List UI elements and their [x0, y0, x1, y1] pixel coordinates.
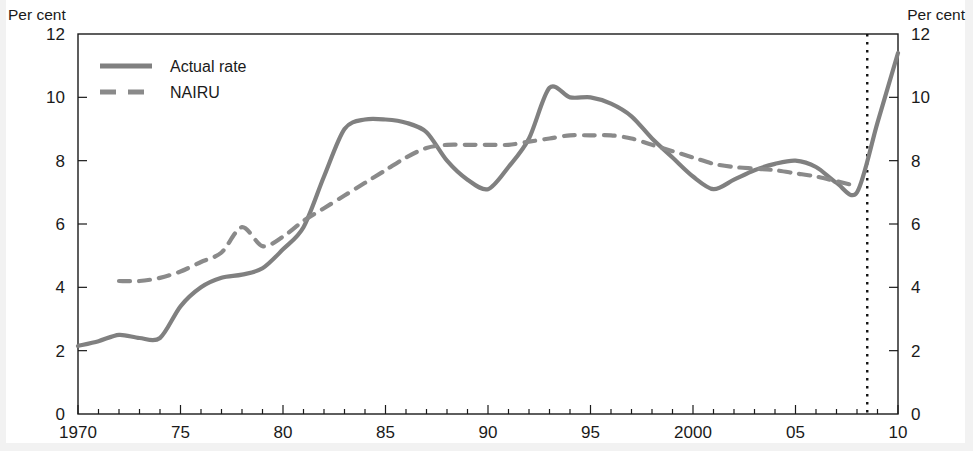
y-tick-label-right: 10 [911, 88, 930, 107]
x-tick-label: 80 [274, 423, 293, 442]
y-tick-label-right: 0 [911, 405, 920, 424]
x-tick-label: 1970 [59, 423, 97, 442]
y-tick-label-right: 4 [911, 278, 920, 297]
page-edge-bottom [0, 443, 973, 451]
y-tick-label-right: 6 [911, 215, 920, 234]
page-edge-right [965, 0, 973, 451]
x-tick-label: 2000 [674, 423, 712, 442]
chart-legend: Actual rateNAIRU [100, 58, 247, 101]
y-tick-label-left: 12 [46, 25, 65, 44]
y-tick-label-right: 2 [911, 342, 920, 361]
y-tick-label-left: 8 [56, 152, 65, 171]
y-axis-unit-label-right: Per cent [907, 6, 965, 24]
chart-plot-area: 1970758085909520000510002244668810101212… [0, 0, 973, 451]
y-tick-label-left: 0 [56, 405, 65, 424]
y-tick-label-left: 4 [56, 278, 65, 297]
chart-figure: Per cent Per cent 1970758085909520000510… [0, 0, 973, 451]
y-tick-label-right: 8 [911, 152, 920, 171]
x-tick-label: 95 [581, 423, 600, 442]
x-tick-label: 05 [786, 423, 805, 442]
legend-label-actual-rate: Actual rate [170, 58, 247, 75]
y-tick-label-left: 10 [46, 88, 65, 107]
x-tick-label: 90 [479, 423, 498, 442]
x-tick-label: 85 [376, 423, 395, 442]
x-tick-label: 75 [171, 423, 190, 442]
y-tick-label-left: 2 [56, 342, 65, 361]
series-line-nairu [119, 135, 857, 281]
y-tick-label-left: 6 [56, 215, 65, 234]
page-edge-left [0, 0, 6, 451]
y-tick-label-right: 12 [911, 25, 930, 44]
legend-label-nairu: NAIRU [170, 84, 220, 101]
y-axis-unit-label-left: Per cent [8, 6, 66, 24]
x-tick-label: 10 [889, 423, 908, 442]
